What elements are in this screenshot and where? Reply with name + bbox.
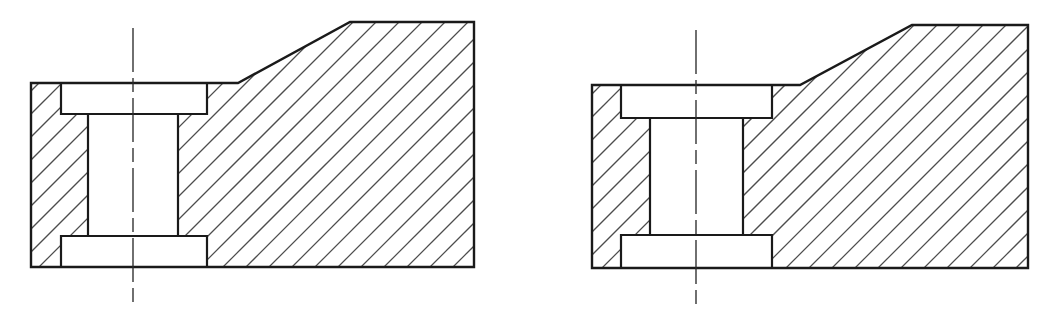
bottom-counterbore-cavity bbox=[61, 236, 207, 267]
hatch-line bbox=[592, 25, 661, 94]
hatch-line bbox=[31, 22, 54, 45]
hatch-line bbox=[31, 22, 100, 91]
top-counterbore-cavity bbox=[61, 83, 207, 114]
drawing-canvas bbox=[0, 0, 1045, 313]
hatch-line bbox=[592, 25, 615, 48]
left-sectional-view bbox=[31, 22, 474, 305]
hatch-line bbox=[31, 22, 77, 68]
hatch-line bbox=[592, 25, 638, 71]
right-sectional-view bbox=[592, 25, 1028, 307]
drawing-sheet bbox=[0, 0, 1045, 313]
